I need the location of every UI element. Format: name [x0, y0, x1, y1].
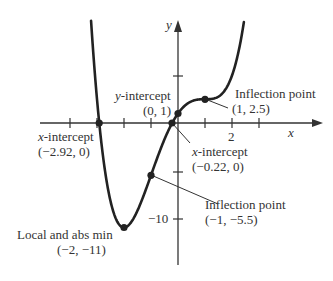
y-axis-label: y: [164, 17, 172, 32]
x-intercept-right-title: -intercept: [198, 144, 248, 159]
x-intercept-left-title: -intercept: [44, 129, 94, 144]
y-intercept-title: -intercept: [121, 88, 171, 103]
minimum-coords: (−2, −11): [57, 242, 106, 257]
x-intercept-right-point: [168, 119, 175, 126]
annotation-x-intercept-left: x-intercept (−2.92, 0): [37, 129, 94, 159]
annotation-inflection-left: Inflection point (−1, −5.5): [205, 197, 286, 227]
y-intercept-point: [174, 110, 181, 117]
annotation-minimum: Local and abs min (−2, −11): [17, 227, 113, 257]
y-axis-arrow-icon: [174, 20, 182, 32]
x-axis-arrow-icon: [312, 119, 323, 127]
inflection-left-title: Inflection point: [205, 197, 286, 212]
inflection-right-title: Inflection point: [235, 86, 316, 101]
function-graph: 2 x −10 y y-intercept (0, 1) Inflection …: [0, 0, 333, 281]
minimum-title: Local and abs min: [17, 227, 113, 242]
annotation-y-intercept: y-intercept (0, 1): [113, 88, 171, 118]
annotation-x-intercept-right: x-intercept (−0.22, 0): [191, 144, 248, 174]
y-tick-label-neg10: −10: [148, 211, 168, 226]
svg-text:x-intercept: x-intercept: [37, 129, 94, 144]
x-axis-label: x: [287, 125, 294, 140]
svg-text:y-intercept: y-intercept: [113, 88, 171, 103]
x-intercept-right-coords: (−0.22, 0): [192, 159, 244, 174]
x-intercept-left-point: [96, 119, 103, 126]
inflection-point-right: [201, 96, 208, 103]
inflection-right-coords: (1, 2.5): [232, 101, 270, 116]
inflection-point-left: [147, 172, 154, 179]
x-intercept-left-coords: (−2.92, 0): [38, 144, 90, 159]
x-tick-label-2: 2: [228, 129, 235, 144]
inflection-left-coords: (−1, −5.5): [205, 212, 258, 227]
y-axis: −10 y: [148, 17, 183, 265]
minimum-point: [120, 224, 127, 231]
svg-text:x-intercept: x-intercept: [191, 144, 248, 159]
y-intercept-coords: (0, 1): [143, 103, 171, 118]
annotation-inflection-right: Inflection point (1, 2.5): [232, 86, 316, 116]
